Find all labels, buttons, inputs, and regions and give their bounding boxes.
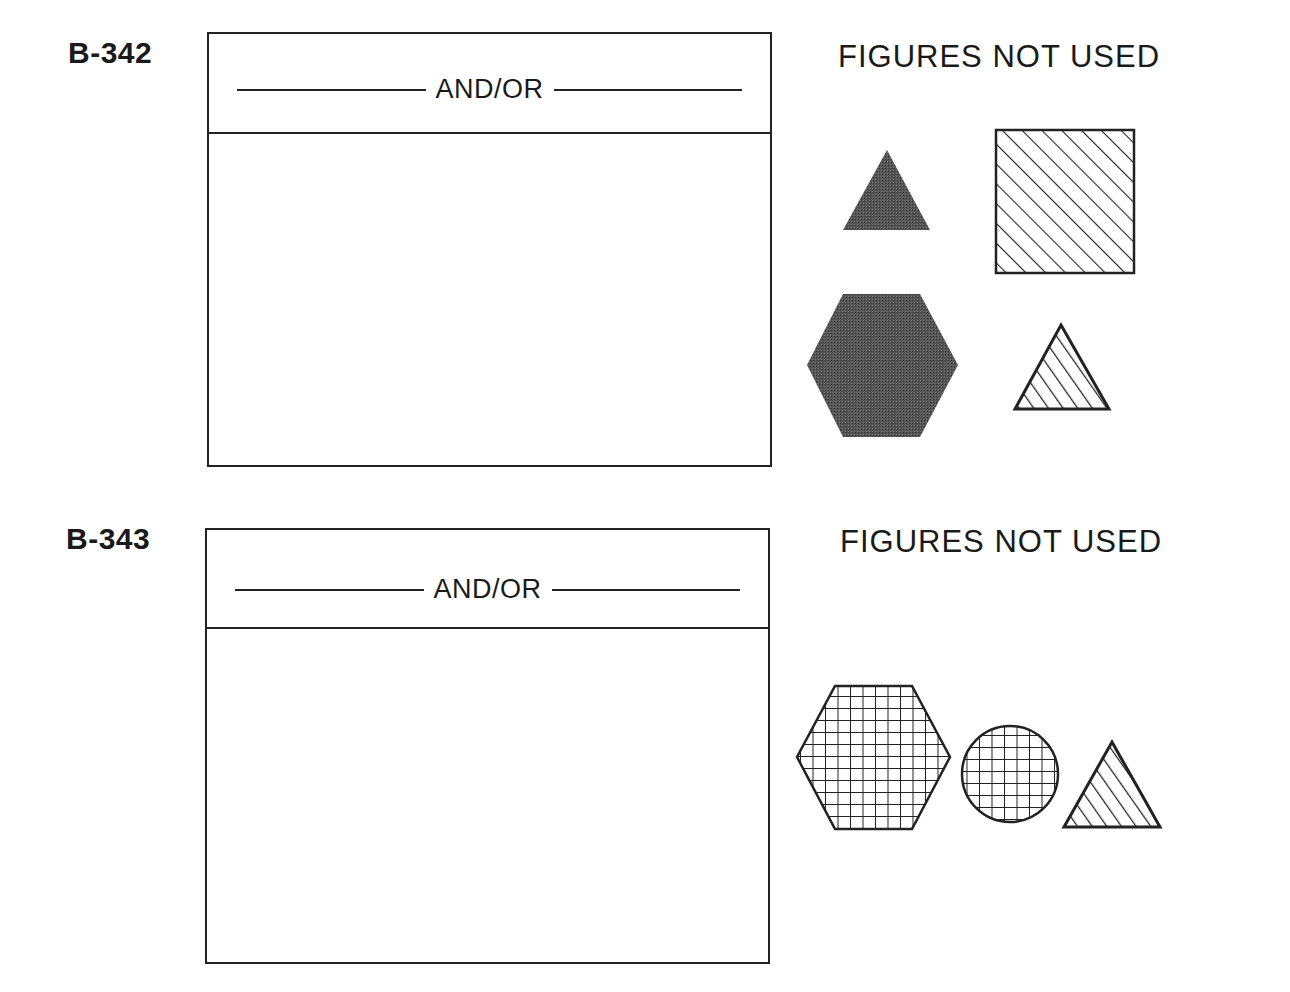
figure-grid-circle [962, 726, 1058, 822]
figure-hatched-square [996, 130, 1134, 273]
figure-dark-hexagon [807, 294, 958, 437]
figure-hatched-triangle-2 [1064, 742, 1160, 827]
figure-dark-triangle [843, 150, 930, 230]
figure-grid-hexagon [797, 686, 950, 829]
figure-hatched-triangle [1015, 325, 1109, 409]
figures-layer [0, 0, 1290, 992]
